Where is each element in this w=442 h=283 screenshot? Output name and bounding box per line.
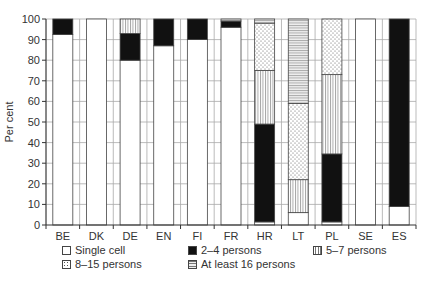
bar-segment (154, 46, 174, 225)
bar-segment (288, 19, 308, 103)
bar-en (154, 19, 174, 225)
x-tick-label: PL (325, 230, 338, 242)
bar-segment (86, 19, 106, 225)
vertical-lines-swatch-icon (313, 246, 322, 255)
bar-segment (154, 19, 174, 46)
x-tick-label: DE (122, 230, 137, 242)
bar-segment (187, 40, 207, 225)
y-tick-label: 30 (28, 157, 40, 169)
bar-es (389, 19, 409, 225)
x-tick-label: EN (156, 230, 171, 242)
bar-be (53, 19, 73, 225)
bar-lt (288, 19, 308, 225)
bar-segment (221, 27, 241, 225)
bar-segment (322, 19, 342, 75)
bar-de (120, 19, 140, 225)
bar-segment (389, 19, 409, 206)
bar-segment (255, 19, 275, 23)
bar-segment (322, 154, 342, 222)
bar-segment (288, 213, 308, 225)
bar-segment (288, 103, 308, 179)
legend-item-single-cell: Single cell (62, 244, 125, 256)
y-tick-label: 0 (34, 219, 40, 231)
bar-pl (322, 19, 342, 225)
legend-item-8-15-persons: 8–15 persons (62, 258, 142, 270)
y-axis-label: Per cent (3, 102, 15, 143)
y-tick-label: 80 (28, 54, 40, 66)
bar-segment (288, 180, 308, 213)
black-swatch-icon (188, 246, 197, 255)
bar-segment (322, 75, 342, 154)
bar-dk (86, 19, 106, 225)
bar-segment (221, 19, 241, 21)
y-tick-label: 90 (28, 34, 40, 46)
stacked-bar-chart: 0102030405060708090100BEDKDEENFIFRHRLTPL… (0, 0, 442, 245)
bar-segment (53, 34, 73, 225)
x-tick-label: FR (224, 230, 239, 242)
bar-fr (221, 19, 241, 225)
white-swatch-icon (62, 246, 71, 255)
y-tick-label: 50 (28, 116, 40, 128)
x-tick-label: BE (55, 230, 70, 242)
bar-segment (255, 23, 275, 70)
y-tick-label: 60 (28, 95, 40, 107)
bar-fi (187, 19, 207, 225)
x-tick-label: FI (192, 230, 202, 242)
bar-segment (53, 19, 73, 34)
bar-segment (389, 206, 409, 225)
y-tick-label: 100 (22, 13, 40, 25)
dots-swatch-icon (62, 260, 71, 269)
bar-segment (120, 60, 140, 225)
legend-item-2-4-persons: 2–4 persons (188, 244, 262, 256)
y-tick-label: 70 (28, 75, 40, 87)
x-tick-label: SE (358, 230, 373, 242)
y-tick-label: 40 (28, 137, 40, 149)
bar-hr (255, 19, 275, 225)
bar-segment (356, 19, 376, 225)
legend-item-5-7-persons: 5–7 persons (313, 244, 387, 256)
bar-segment (221, 21, 241, 27)
x-tick-label: ES (392, 230, 407, 242)
bar-segment (255, 124, 275, 222)
x-tick-label: LT (292, 230, 304, 242)
bar-segment (187, 19, 207, 40)
bar-segment (120, 19, 140, 33)
bars (53, 19, 409, 225)
horizontal-lines-swatch-icon (188, 260, 197, 269)
legend-item-at-least-16-persons: At least 16 persons (188, 258, 295, 270)
y-tick-label: 10 (28, 198, 40, 210)
bar-segment (255, 71, 275, 125)
bar-segment (120, 33, 140, 60)
x-tick-label: HR (257, 230, 273, 242)
bar-se (356, 19, 376, 225)
y-tick-label: 20 (28, 178, 40, 190)
x-tick-label: DK (89, 230, 105, 242)
